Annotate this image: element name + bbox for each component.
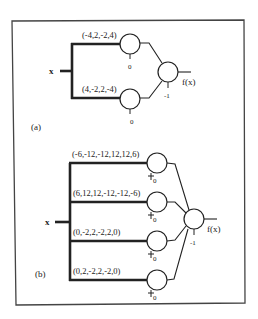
input-label-a: x — [49, 66, 54, 76]
output-bias-label-a: -1 — [164, 92, 170, 100]
bias-label-a1: 0 — [128, 63, 132, 71]
weights-label-b2: (6,12,12,-12,-12,-6) — [73, 188, 140, 198]
hidden-neuron-b1 — [147, 153, 167, 173]
connection-b3-out — [167, 226, 186, 241]
output-neuron-a — [158, 62, 178, 82]
panel-a: x (-4,2,-2,4) (4,-2,2,-4) 0 0 -1 f(x) (a… — [31, 30, 196, 132]
input-label-b: x — [45, 217, 50, 227]
hidden-neuron-a2 — [120, 89, 140, 109]
output-bias-label-b: -1 — [190, 239, 196, 247]
hidden-neuron-b2 — [147, 192, 167, 212]
connection-a2-out — [140, 81, 162, 98]
weights-label-a1: (-4,2,-2,4) — [82, 30, 117, 40]
output-label-b: f(x) — [207, 224, 221, 234]
weights-label-a2: (4,-2,2,-4) — [82, 84, 117, 94]
panel-label-a: (a) — [31, 122, 41, 132]
output-neuron-b — [184, 209, 204, 229]
bias-label-b4: 0 — [153, 294, 157, 302]
weights-label-b4: (0,2,-2,2,-2,0) — [73, 266, 121, 276]
connection-b2-out — [167, 202, 186, 213]
bias-label-b2: 0 — [153, 216, 157, 224]
output-label-a: f(x) — [182, 77, 196, 87]
bias-label-b3: 0 — [153, 255, 157, 263]
bias-label-b1: 0 — [153, 177, 157, 185]
hidden-neuron-a1 — [120, 34, 140, 54]
hidden-neuron-b3 — [147, 231, 167, 251]
bias-label-a2: 0 — [130, 118, 134, 126]
weights-label-b3: (0,-2,2,-2,2,0) — [73, 227, 121, 237]
weights-label-b1: (-6,-12,-12,12,12,6) — [72, 149, 139, 159]
panel-b: x (-6,-12,-12,12,12,6) (6,12,12,-12,-12,… — [35, 149, 221, 302]
connection-a1-out — [140, 43, 162, 63]
panel-label-b: (b) — [35, 269, 46, 279]
connection-b1-out — [167, 163, 189, 210]
neural-network-diagram: x (-4,2,-2,4) (4,-2,2,-4) 0 0 -1 f(x) (a… — [0, 0, 258, 319]
hidden-neuron-b4 — [147, 270, 167, 290]
